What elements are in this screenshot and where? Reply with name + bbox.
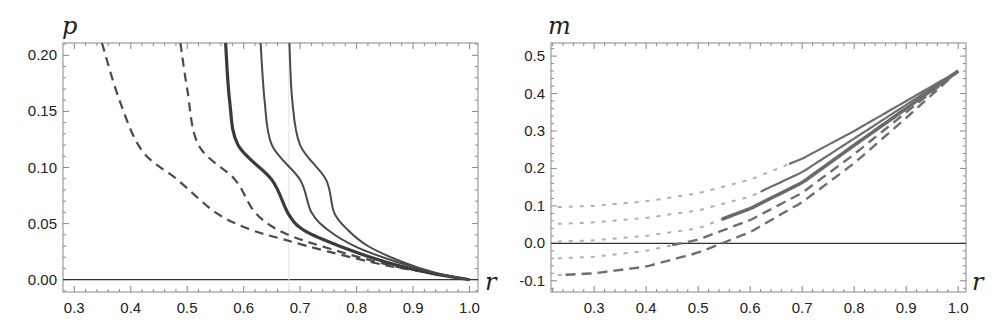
- y-tick-label: 0.1: [524, 197, 545, 214]
- y-tick-label: 0.10: [28, 159, 57, 176]
- x-tick-label: 0.4: [120, 299, 141, 316]
- x-tick-label: 0.5: [688, 299, 709, 316]
- series-line-curve-1: [789, 71, 958, 164]
- left-x-axis-label: r: [485, 268, 498, 296]
- x-tick-label: 0.7: [290, 299, 311, 316]
- x-tick-label: 0.6: [233, 299, 254, 316]
- x-tick-label: 0.5: [177, 299, 198, 316]
- x-tick-label: 0.9: [896, 299, 917, 316]
- y-tick-label: 0.05: [28, 215, 57, 232]
- plot-m-vs-r: 0.30.40.50.60.70.80.91.0-0.10.00.10.20.3…: [519, 43, 968, 316]
- y-tick-label: 0.4: [524, 85, 545, 102]
- plot-p-vs-r: 0.30.40.50.60.70.80.91.00.000.050.100.15…: [28, 43, 480, 316]
- right-y-axis-label: m: [548, 12, 571, 40]
- x-tick-label: 0.8: [844, 299, 865, 316]
- x-tick-label: 0.8: [346, 299, 367, 316]
- x-tick-label: 0.4: [636, 299, 657, 316]
- series-line-curve-4-dotted: [558, 245, 672, 258]
- x-tick-label: 0.7: [792, 299, 813, 316]
- y-tick-label: 0.15: [28, 102, 57, 119]
- x-tick-label: 0.6: [740, 299, 761, 316]
- x-tick-label: 0.3: [584, 299, 605, 316]
- series-line-curve-2-dotted: [558, 192, 761, 224]
- series-line-dashed-2: [180, 43, 469, 280]
- y-tick-label: 0.00: [28, 271, 57, 288]
- series-line-dashed-1: [102, 43, 470, 280]
- left-y-axis-label: p: [62, 12, 77, 40]
- y-tick-label: 0.3: [524, 122, 545, 139]
- y-tick-label: 0.5: [524, 47, 545, 64]
- right-x-axis-label: r: [972, 268, 985, 296]
- y-tick-label: 0.20: [28, 46, 57, 63]
- series-line-curve-2: [761, 71, 959, 192]
- y-tick-label: 0.0: [524, 234, 545, 251]
- x-tick-label: 0.9: [403, 299, 424, 316]
- series-line-curve-1-dotted: [558, 164, 789, 207]
- plot-frame: [63, 43, 478, 292]
- x-tick-label: 1.0: [948, 299, 969, 316]
- x-tick-label: 0.3: [64, 299, 85, 316]
- series-line-curve-5: [566, 71, 959, 275]
- chart-canvas: 0.30.40.50.60.70.80.91.00.000.050.100.15…: [0, 0, 1002, 330]
- y-tick-label: 0.2: [524, 159, 545, 176]
- series-line-curve-4: [672, 71, 958, 245]
- y-tick-label: -0.1: [519, 272, 545, 289]
- x-tick-label: 1.0: [459, 299, 480, 316]
